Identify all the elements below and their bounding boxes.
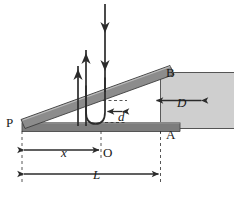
label-dimension-x: x [61,146,67,159]
label-point-a: A [166,128,175,141]
dimension-extension-lines [22,131,161,185]
base-bar-body [22,123,180,132]
label-dimension-d-small: d [118,110,125,123]
reflected-ray-outer-arrow [73,66,82,126]
base-bar [22,123,180,132]
label-dimension-d-capital: D [177,96,186,109]
figure-canvas: P O B A D d x L [0,0,234,198]
physics-diagram-svg [0,0,234,198]
label-point-o: O [103,146,112,159]
label-point-b: B [166,66,175,79]
reflected-ray-inner-arrow [81,50,90,126]
label-point-p: P [6,116,13,129]
inclined-bar [21,66,174,129]
incident-ray-arrow [100,4,109,92]
inclined-bar-highlight [23,67,171,121]
label-dimension-l: L [93,168,100,181]
inclined-bar-body [21,66,174,129]
